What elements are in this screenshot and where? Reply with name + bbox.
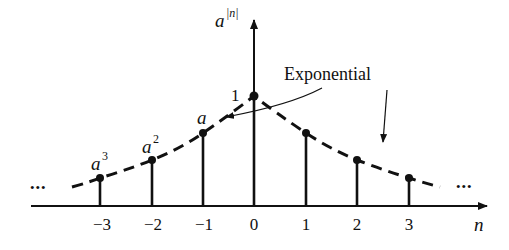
continuation-left: ••• (30, 180, 47, 195)
annotation-arrow-left (226, 88, 322, 117)
annotation-exponential: Exponential (284, 64, 371, 84)
annotation-arrow-right (383, 90, 387, 142)
continuation-right: ••• (456, 179, 473, 194)
y-axis-label-sup: |n| (226, 6, 239, 20)
tick-labels: −3 −2 −1 0 1 2 3 (93, 215, 413, 234)
tick-label: −3 (93, 215, 111, 234)
tick-label: −2 (144, 215, 162, 234)
tick-label: 0 (250, 215, 259, 234)
peak-label: 1 (231, 86, 240, 105)
tick-label: −1 (195, 215, 213, 234)
tick-label: 2 (353, 215, 362, 234)
label-a3: a (91, 153, 101, 174)
y-axis-label: a (215, 10, 225, 31)
stem-plot: ••• ••• Exponential 1 a a 2 a 3 a |n| n … (0, 0, 509, 250)
label-a2-sup: 2 (153, 132, 159, 146)
x-axis-label: n (474, 214, 484, 235)
tick-label: 1 (302, 215, 311, 234)
exponential-envelope (72, 96, 440, 187)
tick-label: 3 (405, 215, 414, 234)
label-a3-sup: 3 (102, 149, 108, 163)
label-a2: a (142, 136, 152, 157)
label-a1: a (197, 107, 207, 128)
